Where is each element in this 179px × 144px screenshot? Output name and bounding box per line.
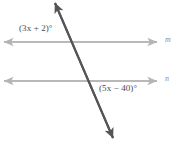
transversal-line-arrow-down (55, 3, 113, 138)
angle-label-bottom: (5x − 40)° (99, 83, 137, 93)
diagram-canvas (0, 0, 179, 144)
geometry-figure: (3x + 2)° (5x − 40)° m n (0, 0, 179, 144)
angle-label-top: (3x + 2)° (19, 23, 53, 33)
line-label-m: m (165, 35, 171, 44)
line-label-n: n (165, 74, 169, 83)
